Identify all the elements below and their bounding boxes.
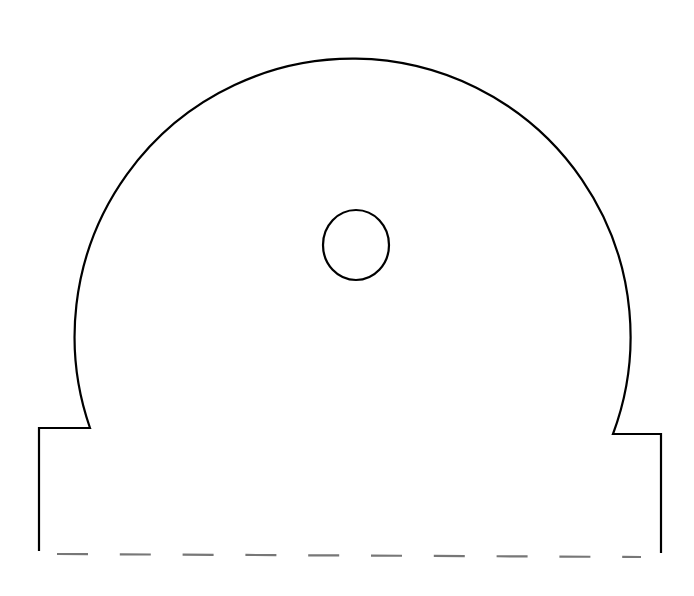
outline-shape [39,59,661,553]
template-diagram [0,0,694,596]
fold-dashed-line [57,554,641,557]
hole-circle [323,210,389,280]
